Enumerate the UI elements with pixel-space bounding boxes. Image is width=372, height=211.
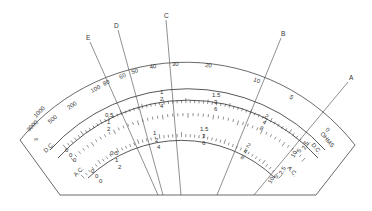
ohms-tick-label: 10 bbox=[253, 76, 262, 84]
pointer-label-e: E bbox=[86, 34, 91, 41]
ac-scale-label: A.C. bbox=[72, 165, 85, 178]
scale-ticks bbox=[63, 98, 310, 178]
ohms-tick-label: 1000 bbox=[32, 105, 46, 119]
ac-row2-label: 1 bbox=[115, 157, 119, 163]
pointer-line-b bbox=[217, 38, 281, 195]
dc-row2-label: 3 bbox=[214, 99, 218, 105]
ac-row1-label: 1 bbox=[153, 130, 157, 136]
dc-scale-label-right: D.C. bbox=[310, 142, 323, 155]
ohms-tick-label: ∞ bbox=[34, 136, 38, 142]
ohms-tick-label: 5 bbox=[288, 94, 295, 101]
dc-arc bbox=[58, 100, 318, 158]
meter-scale-diagram: A B C D E ∞ 3000 1000 500 200 100 80 60 … bbox=[0, 0, 372, 211]
pointer-label-b: B bbox=[281, 30, 285, 37]
meter-face: A B C D E ∞ 3000 1000 500 200 100 80 60 … bbox=[0, 0, 372, 211]
pointer-line-d bbox=[118, 30, 163, 195]
ac-row1-label: 1.5 bbox=[200, 126, 209, 132]
pointer-label-a: A bbox=[349, 74, 354, 81]
dc-scale-label: D.C. bbox=[42, 141, 55, 154]
ac-row3-label: 8 bbox=[239, 154, 246, 161]
dc-row3-label: 2 bbox=[107, 126, 111, 132]
dc-row2-label: 2 bbox=[160, 96, 164, 102]
ac-row1-label: 0.5 bbox=[110, 150, 119, 156]
dc-row2-label: 1 bbox=[107, 119, 111, 125]
ac-zero-3: 0 bbox=[99, 178, 103, 184]
ohms-tick-label: 200 bbox=[66, 100, 78, 111]
ac-scale-label-right: A.C. bbox=[286, 165, 298, 178]
ohms-tick-label: 3000 bbox=[25, 119, 39, 133]
dc-row1-label: 1.5 bbox=[212, 92, 221, 98]
pointer-line-c bbox=[166, 20, 181, 195]
ac-row1-label: 2.5 bbox=[278, 165, 288, 176]
ohms-tick-label: 60 bbox=[118, 72, 127, 80]
meter-outline bbox=[20, 62, 355, 195]
pointer-line-e bbox=[90, 42, 158, 195]
dc-row1-label: 0.5 bbox=[105, 112, 114, 118]
ac-row3-label: 4 bbox=[157, 144, 161, 150]
ohms-tick-label: 100 bbox=[90, 84, 102, 94]
dc-zero-3: 0 bbox=[73, 157, 77, 163]
ohms-tick-label: 500 bbox=[47, 113, 59, 124]
dc-row3-label: 4 bbox=[160, 103, 164, 109]
ac-row2-label: 3 bbox=[202, 133, 206, 139]
pointer-label-c: C bbox=[164, 12, 169, 19]
ohms-tick-label: 30 bbox=[172, 61, 179, 67]
ohms-tick-label: 20 bbox=[205, 62, 213, 69]
ac-row3-label: 6 bbox=[202, 140, 206, 146]
pointer-label-d: D bbox=[114, 22, 119, 29]
ohms-tick-label: 50 bbox=[131, 67, 140, 75]
dc-row3-label: 6 bbox=[214, 106, 218, 112]
ac-row3-label: 2 bbox=[118, 164, 122, 170]
